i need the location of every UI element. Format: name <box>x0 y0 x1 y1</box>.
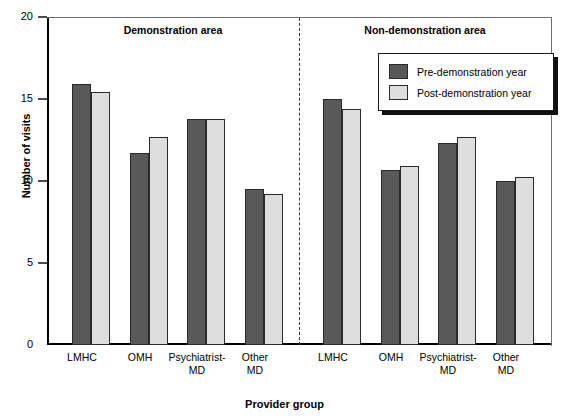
x-tick-text: OMH <box>128 351 153 363</box>
legend-swatch-pre-demonstration-year <box>389 64 408 79</box>
x-tick-text-line2: MD <box>498 364 514 376</box>
x-tick-text-line2: MD <box>189 364 205 376</box>
y-tick-label-10: 10 <box>0 175 33 186</box>
legend-label-post-demonstration-year: Post-demonstration year <box>417 87 531 99</box>
legend-swatch-post-demonstration-year <box>389 85 408 100</box>
x-tick-text: LMHC <box>67 351 97 363</box>
legend: Pre-demonstration year Post-demonstratio… <box>378 53 554 111</box>
y-axis-title: Number of visits <box>20 86 32 226</box>
bar-non-demonstration-area-other-md-pre-demonstration-year <box>496 181 515 345</box>
bar-non-demonstration-area-lmhc-pre-demonstration-year <box>323 99 342 345</box>
bar-demonstration-area-lmhc-post-demonstration-year <box>91 92 110 345</box>
x-tick-text-line2: MD <box>440 364 456 376</box>
bar-non-demonstration-area-other-md-post-demonstration-year <box>515 177 534 345</box>
x-tick-label-nondemo-other-md: Other MD <box>461 351 551 377</box>
bar-non-demonstration-area-omh-post-demonstration-year <box>400 166 419 345</box>
y-tick-mark-15 <box>38 98 47 100</box>
y-tick-mark-20 <box>38 16 47 18</box>
bar-demonstration-area-other-md-pre-demonstration-year <box>245 189 264 345</box>
bar-demonstration-area-other-md-post-demonstration-year <box>264 194 283 345</box>
bar-non-demonstration-area-psychiatrist-md-pre-demonstration-year <box>438 143 457 345</box>
bar-non-demonstration-area-omh-pre-demonstration-year <box>381 170 400 345</box>
y-tick-label-5: 5 <box>0 257 33 268</box>
x-tick-text-line1: Other <box>493 351 519 363</box>
x-tick-text-line2: MD <box>247 364 263 376</box>
legend-item-post-demonstration-year: Post-demonstration year <box>389 82 545 103</box>
bar-chart-figure: Number of visits 20 15 10 5 0 Demonstrat… <box>0 0 569 419</box>
x-tick-label-demo-other-md: Other MD <box>210 351 300 377</box>
x-axis-title: Provider group <box>0 398 569 410</box>
y-tick-label-0: 0 <box>0 339 33 350</box>
bar-non-demonstration-area-lmhc-post-demonstration-year <box>342 109 361 345</box>
y-tick-label-15: 15 <box>0 93 33 104</box>
x-tick-text: OMH <box>379 351 404 363</box>
legend-item-pre-demonstration-year: Pre-demonstration year <box>389 61 545 82</box>
y-tick-mark-5 <box>38 262 47 264</box>
bar-demonstration-area-lmhc-pre-demonstration-year <box>72 84 91 345</box>
bar-demonstration-area-psychiatrist-md-post-demonstration-year <box>206 119 225 345</box>
x-tick-text-line1: Other <box>242 351 268 363</box>
bar-demonstration-area-psychiatrist-md-pre-demonstration-year <box>187 119 206 345</box>
x-tick-text: LMHC <box>318 351 348 363</box>
y-tick-label-20: 20 <box>0 11 33 22</box>
legend-label-pre-demonstration-year: Pre-demonstration year <box>417 66 527 78</box>
bar-demonstration-area-omh-post-demonstration-year <box>149 137 168 345</box>
bar-non-demonstration-area-psychiatrist-md-post-demonstration-year <box>457 137 476 345</box>
y-tick-mark-10 <box>38 180 47 182</box>
bar-demonstration-area-omh-pre-demonstration-year <box>130 153 149 345</box>
